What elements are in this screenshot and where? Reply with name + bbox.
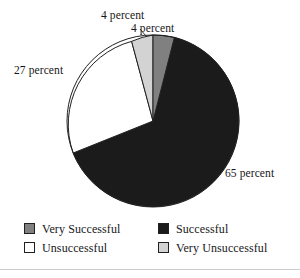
chart-legend: Very Successful Successful Unsuccessful … <box>24 219 292 257</box>
legend-item-very-unsuccessful[interactable]: Very Unsuccessful <box>158 242 292 254</box>
footer-divider <box>0 269 300 270</box>
pie-chart-figure: 4 percent 4 percent 27 percent 65 percen… <box>0 0 300 278</box>
legend-swatch-icon <box>158 242 169 253</box>
legend-item-successful[interactable]: Successful <box>158 223 292 235</box>
legend-swatch-icon <box>158 223 169 234</box>
pie-slices <box>68 35 239 207</box>
slice-label-unsuccessful: 27 percent <box>14 64 63 77</box>
legend-swatch-icon <box>24 242 35 253</box>
legend-item-label: Unsuccessful <box>42 242 107 254</box>
legend-item-unsuccessful[interactable]: Unsuccessful <box>24 242 158 254</box>
legend-item-very-successful[interactable]: Very Successful <box>24 223 158 235</box>
pie-chart-plot-area: 4 percent 4 percent 27 percent 65 percen… <box>0 0 300 215</box>
slice-label-successful: 65 percent <box>225 167 274 180</box>
slice-label-very-successful: 4 percent <box>131 22 174 35</box>
legend-item-label: Very Unsuccessful <box>176 242 267 254</box>
legend-swatch-icon <box>24 223 35 234</box>
legend-item-label: Very Successful <box>42 223 120 235</box>
legend-item-label: Successful <box>176 223 228 235</box>
slice-label-very-unsuccessful: 4 percent <box>101 9 144 22</box>
